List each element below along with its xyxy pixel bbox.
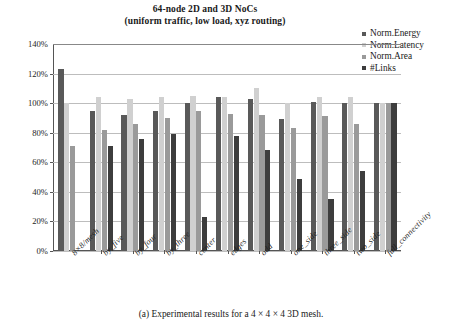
- bar-group: [338, 44, 370, 251]
- bar: [121, 115, 126, 251]
- bar: [228, 114, 233, 252]
- bar: [108, 146, 113, 251]
- y-axis-tick-mark: [50, 162, 53, 163]
- bar: [234, 136, 239, 251]
- bar-group: [369, 44, 401, 251]
- bar-group: [149, 44, 181, 251]
- y-axis-tick-label: 120%: [28, 69, 48, 79]
- y-axis-tick-label: 60%: [32, 157, 48, 167]
- bar: [216, 97, 221, 251]
- bar: [265, 150, 270, 251]
- y-axis-tick-label: 140%: [28, 39, 48, 49]
- bar: [248, 99, 253, 251]
- legend-swatch-icon: [362, 32, 366, 36]
- bar: [159, 97, 164, 251]
- bar: [196, 111, 201, 251]
- figure-caption: (a) Experimental results for a 4 × 4 × 4…: [0, 309, 462, 319]
- bar: [386, 103, 391, 251]
- bar: [139, 139, 144, 251]
- bar: [322, 116, 327, 251]
- y-axis-tick-label: 20%: [32, 216, 48, 226]
- bar: [391, 103, 396, 251]
- chart-title-line2: (uniform traffic, low load, xyz routing): [60, 15, 350, 27]
- bar: [70, 146, 75, 251]
- y-axis-tick-mark: [50, 133, 53, 134]
- bar-group: [54, 44, 86, 251]
- plot-area: 0%20%40%60%80%100%120%140%: [53, 44, 401, 251]
- y-axis-tick-mark: [50, 221, 53, 222]
- y-axis-tick-mark: [50, 192, 53, 193]
- bar-group: [275, 44, 307, 251]
- y-axis-tick-label: 100%: [28, 98, 48, 108]
- bar: [222, 97, 227, 251]
- bar: [190, 96, 195, 251]
- y-axis-tick-mark: [50, 74, 53, 75]
- bar: [285, 103, 290, 251]
- chart-title-line1: 64-node 2D and 3D NoCs: [153, 4, 258, 14]
- legend-item-label: Norm.Energy: [370, 28, 421, 40]
- bar: [291, 128, 296, 251]
- y-axis-tick-label: 80%: [32, 128, 48, 138]
- y-axis-tick-label: 40%: [32, 187, 48, 197]
- y-axis-tick-label: 0%: [37, 246, 48, 256]
- bar-group: [243, 44, 275, 251]
- bar-groups: [54, 44, 401, 251]
- bar: [380, 103, 385, 251]
- bar: [127, 99, 132, 251]
- bar: [133, 124, 138, 251]
- bar: [354, 124, 359, 251]
- y-axis-tick-mark: [50, 103, 53, 104]
- bar: [171, 134, 176, 251]
- bar: [64, 103, 69, 251]
- bar-group: [212, 44, 244, 251]
- legend-item: Norm.Energy: [362, 28, 460, 40]
- bar-group: [180, 44, 212, 251]
- bar: [279, 119, 284, 251]
- bar-group: [117, 44, 149, 251]
- bar: [254, 88, 259, 251]
- chart-title: 64-node 2D and 3D NoCs (uniform traffic,…: [60, 3, 350, 27]
- bar: [165, 118, 170, 251]
- x-axis-labels: 8×8/meshby_fiveby_fourby_threecenteredge…: [53, 251, 401, 301]
- bar: [317, 97, 322, 251]
- bar: [58, 69, 63, 251]
- bar-group: [306, 44, 338, 251]
- figure-container: 64-node 2D and 3D NoCs (uniform traffic,…: [0, 0, 462, 329]
- bar: [259, 115, 264, 251]
- bar: [102, 130, 107, 251]
- bar: [153, 111, 158, 251]
- bar-group: [86, 44, 118, 251]
